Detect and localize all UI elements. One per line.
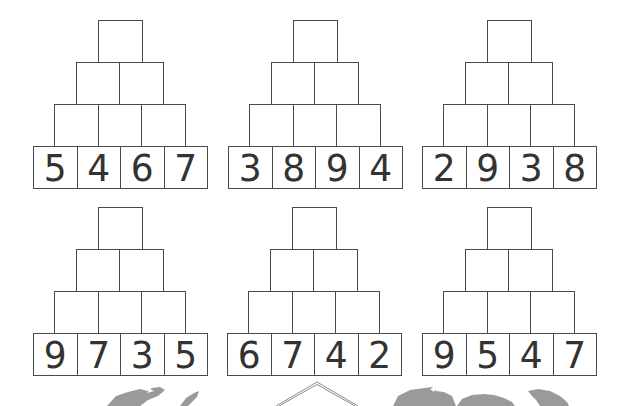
leaf-icon	[528, 389, 569, 406]
pyramid-row2-cell[interactable]	[508, 62, 553, 105]
pyramid-row3-cell[interactable]	[141, 104, 186, 147]
base-number: 4	[325, 336, 348, 374]
pyramid-row2-cell[interactable]	[313, 249, 358, 292]
base-cell: 4	[314, 333, 359, 376]
base-cell: 5	[164, 333, 209, 376]
base-number: 2	[368, 336, 391, 374]
base-cell: 9	[466, 146, 511, 189]
pyramid-2: 3 8 9 4	[228, 20, 403, 188]
base-number: 8	[282, 149, 305, 187]
base-cell: 9	[422, 333, 467, 376]
pyramid-6: 9 5 4 7	[422, 207, 597, 375]
base-cell: 8	[553, 146, 598, 189]
base-cell: 6	[227, 333, 272, 376]
pyramid-row3-cell[interactable]	[443, 104, 488, 147]
base-number: 8	[563, 149, 586, 187]
pyramid-row3-cell[interactable]	[249, 104, 294, 147]
pyramid-row3-cell[interactable]	[141, 291, 186, 334]
pyramid-row3-cell[interactable]	[292, 291, 337, 334]
base-cell: 4	[359, 146, 404, 189]
base-number: 9	[44, 336, 67, 374]
base-number: 3	[131, 336, 154, 374]
base-cell: 7	[77, 333, 122, 376]
base-cell: 4	[509, 333, 554, 376]
base-number: 4	[520, 336, 543, 374]
base-cell: 2	[422, 146, 467, 189]
leaf-icon	[393, 386, 456, 406]
base-cell: 5	[466, 333, 511, 376]
pyramid-row3-cell[interactable]	[293, 104, 338, 147]
pyramid-top-cell[interactable]	[98, 20, 143, 63]
base-number: 2	[433, 149, 456, 187]
pyramid-row2-cell[interactable]	[465, 62, 510, 105]
pyramid-top-cell[interactable]	[293, 20, 338, 63]
pyramid-row2-cell[interactable]	[465, 249, 510, 292]
base-number: 3	[239, 149, 262, 187]
pyramid-row3-cell[interactable]	[248, 291, 293, 334]
base-number: 4	[369, 149, 392, 187]
base-cell: 8	[272, 146, 317, 189]
base-cell: 4	[77, 146, 122, 189]
roof-icon	[276, 382, 358, 406]
pyramid-1: 5 4 6 7	[33, 20, 208, 188]
pyramid-row3-cell[interactable]	[54, 104, 99, 147]
base-number: 6	[238, 336, 261, 374]
pyramid-5: 6 7 4 2	[227, 207, 402, 375]
base-number: 7	[87, 336, 110, 374]
pyramid-row3-cell[interactable]	[336, 104, 381, 147]
base-number: 3	[520, 149, 543, 187]
base-cell: 7	[164, 146, 209, 189]
pyramid-row3-cell[interactable]	[98, 291, 143, 334]
base-cell: 5	[33, 146, 78, 189]
pyramid-row2-cell[interactable]	[270, 249, 315, 292]
pyramid-row2-cell[interactable]	[76, 62, 121, 105]
base-number: 5	[174, 336, 197, 374]
pyramid-row3-cell[interactable]	[335, 291, 380, 334]
base-cell: 3	[120, 333, 165, 376]
base-number: 7	[281, 336, 304, 374]
pyramid-row2-cell[interactable]	[76, 249, 121, 292]
base-number: 5	[44, 149, 67, 187]
pyramid-row2-cell[interactable]	[119, 62, 164, 105]
pyramid-row2-cell[interactable]	[119, 249, 164, 292]
base-cell: 6	[120, 146, 165, 189]
base-cell: 2	[358, 333, 403, 376]
pyramid-row2-cell[interactable]	[271, 62, 316, 105]
pyramid-top-cell[interactable]	[487, 20, 532, 63]
pyramid-4: 9 7 3 5	[33, 207, 208, 375]
pyramid-row3-cell[interactable]	[54, 291, 99, 334]
base-cell: 7	[271, 333, 316, 376]
base-cell: 7	[553, 333, 598, 376]
pyramid-top-cell[interactable]	[487, 207, 532, 250]
leaf-icon	[457, 394, 515, 406]
pyramid-row3-cell[interactable]	[530, 291, 575, 334]
base-number: 6	[131, 149, 154, 187]
pyramid-row3-cell[interactable]	[443, 291, 488, 334]
base-cell: 3	[509, 146, 554, 189]
pyramid-top-cell[interactable]	[98, 207, 143, 250]
base-number: 4	[87, 149, 110, 187]
leaf-icon	[180, 391, 199, 406]
base-number: 7	[174, 149, 197, 187]
base-number: 7	[563, 336, 586, 374]
pyramid-row3-cell[interactable]	[487, 291, 532, 334]
pyramid-row3-cell[interactable]	[530, 104, 575, 147]
pyramid-3: 2 9 3 8	[422, 20, 597, 188]
base-number: 9	[476, 149, 499, 187]
leaf-icon	[107, 387, 165, 406]
base-cell: 9	[315, 146, 360, 189]
base-number: 5	[476, 336, 499, 374]
base-cell: 9	[33, 333, 78, 376]
base-cell: 3	[228, 146, 273, 189]
pyramid-row2-cell[interactable]	[314, 62, 359, 105]
pyramid-top-cell[interactable]	[292, 207, 337, 250]
pyramid-row2-cell[interactable]	[508, 249, 553, 292]
base-number: 9	[326, 149, 349, 187]
pyramid-row3-cell[interactable]	[487, 104, 532, 147]
base-number: 9	[433, 336, 456, 374]
pyramid-row3-cell[interactable]	[98, 104, 143, 147]
